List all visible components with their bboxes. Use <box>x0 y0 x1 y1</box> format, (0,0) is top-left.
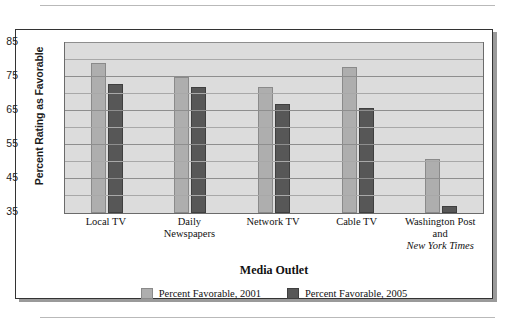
gridline-minor <box>65 93 483 94</box>
page-rule-top <box>40 5 495 6</box>
gridline-major <box>65 42 483 43</box>
bar <box>425 159 440 213</box>
gridline-minor <box>65 195 483 196</box>
chart-figure: Percent Rating as Favorable 354555657585… <box>15 29 493 299</box>
legend-item: Percent Favorable, 2001 <box>141 288 261 299</box>
gridline-major <box>65 76 483 77</box>
legend-item: Percent Favorable, 2005 <box>287 288 407 299</box>
page-rule-bottom <box>40 317 495 318</box>
y-axis-title: Percent Rating as Favorable <box>33 26 45 206</box>
bar <box>174 77 189 213</box>
x-axis-title: Media Outlet <box>64 263 484 278</box>
x-axis-category-labels: Local TVDailyNewspapersNetwork TVCable T… <box>64 216 484 262</box>
bar <box>91 63 106 213</box>
bar <box>275 104 290 213</box>
y-tick-label: 55 <box>0 137 18 149</box>
y-tick-label: 85 <box>0 35 18 47</box>
gridline-major <box>65 178 483 179</box>
y-tick-label: 65 <box>0 103 18 115</box>
bars-layer <box>65 43 483 213</box>
y-tick-label: 35 <box>0 205 18 217</box>
gridline-minor <box>65 161 483 162</box>
gridline-minor <box>65 127 483 128</box>
bar <box>342 67 357 213</box>
bar <box>442 206 457 213</box>
chart-legend: Percent Favorable, 2001Percent Favorable… <box>64 288 484 299</box>
x-category-label: Washington PostandNew York Times <box>386 216 494 252</box>
gridline-major <box>65 110 483 111</box>
y-tick-label: 45 <box>0 171 18 183</box>
y-tick-label: 75 <box>0 69 18 81</box>
gridline-major <box>65 144 483 145</box>
legend-label: Percent Favorable, 2005 <box>305 288 407 299</box>
gridline-minor <box>65 59 483 60</box>
plot-area <box>64 42 484 214</box>
legend-label: Percent Favorable, 2001 <box>159 288 261 299</box>
legend-swatch <box>287 288 299 299</box>
bar <box>108 84 123 213</box>
legend-swatch <box>141 288 153 299</box>
